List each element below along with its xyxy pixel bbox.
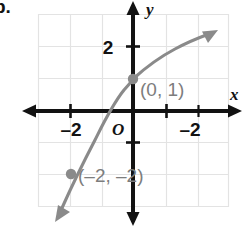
figure-container: b.: [0, 0, 243, 227]
x-tick-label-left: –2: [60, 119, 81, 140]
y-axis: [126, 1, 140, 226]
origin-label: O: [112, 120, 124, 139]
y-tick-label-2: 2: [103, 37, 114, 58]
y-axis-arrow-top: [127, 1, 140, 15]
x-tick-label-right: –2: [179, 119, 200, 140]
x-axis-arrow-left: [22, 105, 36, 118]
x-axis-arrow-right: [228, 105, 242, 118]
point-label-neg2-neg2: (–2, –2): [78, 165, 143, 186]
y-axis-name: y: [144, 0, 154, 19]
x-axis-name: x: [229, 85, 239, 104]
point-marker-0-1: [128, 74, 138, 84]
y-axis-arrow-bottom: [127, 212, 140, 226]
point-label-0-1: (0, 1): [140, 79, 184, 100]
coordinate-plane-figure: y x 2 –2 –2 O (0, 1) (–2, –2): [0, 0, 243, 227]
point-marker-neg2-neg2: [66, 169, 76, 179]
